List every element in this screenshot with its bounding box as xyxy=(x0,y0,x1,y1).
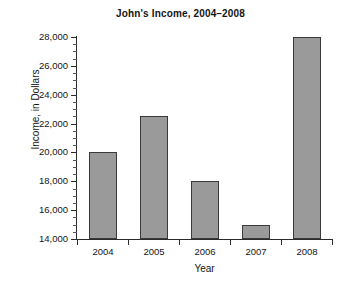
x-tick xyxy=(281,240,282,245)
y-tick-label: 26,000 xyxy=(8,60,68,71)
bar xyxy=(191,181,219,239)
bar xyxy=(242,225,270,239)
y-axis-title: Income, in Dollars xyxy=(30,30,41,190)
x-tick xyxy=(77,240,78,245)
y-tick-label: 24,000 xyxy=(8,89,68,100)
x-tick-label: 2005 xyxy=(128,246,180,257)
bar xyxy=(293,37,321,239)
plot-area xyxy=(77,37,332,239)
y-tick-label: 28,000 xyxy=(8,31,68,42)
bar-chart-figure: John's Income, 2004–2008 Income, in Doll… xyxy=(0,0,361,284)
x-tick xyxy=(179,240,180,245)
chart-title: John's Income, 2004–2008 xyxy=(0,8,361,19)
x-tick-label: 2004 xyxy=(77,246,129,257)
x-tick xyxy=(128,240,129,245)
x-tick-label: 2006 xyxy=(179,246,231,257)
x-tick-label: 2007 xyxy=(230,246,282,257)
y-tick-label: 20,000 xyxy=(8,146,68,157)
y-tick-label: 16,000 xyxy=(8,204,68,215)
x-tick xyxy=(230,240,231,245)
y-tick-label: 14,000 xyxy=(8,233,68,244)
y-tick-label: 18,000 xyxy=(8,175,68,186)
bar xyxy=(140,116,168,239)
x-tick xyxy=(332,240,333,245)
bar xyxy=(89,152,117,239)
x-tick-label: 2008 xyxy=(281,246,333,257)
y-tick-label: 22,000 xyxy=(8,118,68,129)
x-axis-spine xyxy=(76,239,333,240)
x-axis-title: Year xyxy=(77,263,332,274)
